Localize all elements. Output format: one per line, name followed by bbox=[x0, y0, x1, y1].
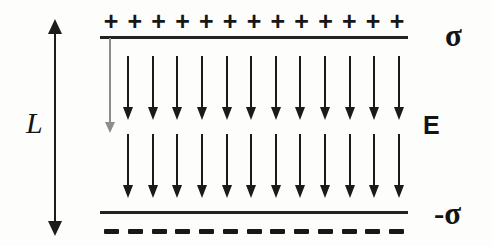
arrow-shaft bbox=[398, 56, 400, 108]
negative-charge-symbol bbox=[342, 229, 357, 234]
negative-charge-row bbox=[104, 228, 404, 234]
electric-field-label: E bbox=[423, 113, 440, 138]
arrow-shaft bbox=[152, 56, 154, 108]
electric-field-arrow bbox=[294, 56, 306, 120]
arrow-shaft bbox=[226, 134, 228, 186]
arrow-shaft bbox=[176, 56, 178, 108]
positive-charge-symbol: + bbox=[365, 9, 381, 34]
arrow-shaft bbox=[201, 134, 203, 186]
arrow-shaft bbox=[250, 56, 252, 108]
arrow-head bbox=[197, 107, 207, 120]
negative-charge-symbol bbox=[223, 229, 238, 234]
arrow-shaft bbox=[152, 134, 154, 186]
negative-charge-symbol bbox=[128, 229, 143, 234]
arrow-head bbox=[394, 107, 404, 120]
electric-field-arrow bbox=[344, 56, 356, 120]
field-arrow-row-top bbox=[122, 56, 405, 122]
arrow-shaft bbox=[349, 56, 351, 108]
arrow-head bbox=[320, 185, 330, 198]
bottom-capacitor-plate bbox=[100, 211, 408, 214]
arrow-head bbox=[369, 107, 379, 120]
positive-charge-symbol: + bbox=[198, 9, 214, 34]
arrow-head bbox=[295, 185, 305, 198]
arrow-head bbox=[320, 107, 330, 120]
arrow-head bbox=[394, 185, 404, 198]
electric-field-arrow bbox=[393, 134, 405, 198]
positive-charge-row: +++++++++++++ bbox=[103, 9, 405, 33]
arrow-head bbox=[369, 185, 379, 198]
electric-field-arrow bbox=[122, 56, 134, 120]
negative-charge-symbol bbox=[270, 229, 285, 234]
arrow-head bbox=[172, 107, 182, 120]
arrow-head bbox=[271, 185, 281, 198]
arrow-shaft bbox=[176, 134, 178, 186]
negative-charge-symbol bbox=[294, 229, 309, 234]
arrow-shaft bbox=[127, 56, 129, 108]
positive-charge-symbol: + bbox=[341, 9, 357, 34]
electric-field-arrow bbox=[147, 134, 159, 198]
field-arrow-row-bottom bbox=[122, 134, 405, 200]
electric-field-arrow bbox=[294, 134, 306, 198]
electric-field-arrow bbox=[245, 56, 257, 120]
negative-charge-symbol bbox=[175, 229, 190, 234]
arrow-shaft bbox=[299, 134, 301, 186]
positive-charge-symbol: + bbox=[270, 9, 286, 34]
electric-field-arrow bbox=[196, 56, 208, 120]
electric-field-arrow bbox=[368, 56, 380, 120]
positive-charge-symbol: + bbox=[174, 9, 190, 34]
arrow-shaft bbox=[398, 134, 400, 186]
arrow-shaft bbox=[250, 134, 252, 186]
electric-field-arrow bbox=[319, 134, 331, 198]
separation-label: L bbox=[26, 108, 43, 138]
bottom-surface-charge-label: -σ bbox=[434, 198, 461, 229]
electric-field-arrow bbox=[319, 56, 331, 120]
arrow-shaft bbox=[275, 134, 277, 186]
field-guide-arrowhead bbox=[105, 122, 115, 133]
negative-charge-symbol bbox=[152, 229, 167, 234]
positive-charge-symbol: + bbox=[127, 9, 143, 34]
arrow-shaft bbox=[127, 134, 129, 186]
arrow-head bbox=[123, 107, 133, 120]
electric-field-arrow bbox=[245, 134, 257, 198]
arrow-head bbox=[345, 185, 355, 198]
electric-field-arrow bbox=[221, 134, 233, 198]
arrow-head bbox=[271, 107, 281, 120]
arrow-shaft bbox=[349, 134, 351, 186]
arrow-shaft bbox=[324, 56, 326, 108]
positive-charge-symbol: + bbox=[151, 9, 167, 34]
positive-charge-symbol: + bbox=[222, 9, 238, 34]
arrow-head bbox=[172, 185, 182, 198]
top-surface-charge-label: σ bbox=[445, 20, 462, 51]
electric-field-arrow bbox=[122, 134, 134, 198]
electric-field-arrow bbox=[196, 134, 208, 198]
arrow-head bbox=[123, 185, 133, 198]
arrow-head bbox=[148, 107, 158, 120]
negative-charge-symbol bbox=[247, 229, 262, 234]
negative-charge-symbol bbox=[104, 229, 119, 234]
arrow-shaft bbox=[373, 134, 375, 186]
positive-charge-symbol: + bbox=[317, 9, 333, 34]
positive-charge-symbol: + bbox=[246, 9, 262, 34]
separation-arrowhead-down bbox=[48, 221, 62, 236]
electric-field-arrow bbox=[171, 134, 183, 198]
arrow-head bbox=[222, 185, 232, 198]
arrow-shaft bbox=[324, 134, 326, 186]
arrow-shaft bbox=[201, 56, 203, 108]
arrow-head bbox=[246, 185, 256, 198]
positive-charge-symbol: + bbox=[294, 9, 310, 34]
arrow-shaft bbox=[373, 56, 375, 108]
negative-charge-symbol bbox=[365, 229, 380, 234]
field-guide-line bbox=[109, 38, 111, 126]
arrow-head bbox=[295, 107, 305, 120]
arrow-head bbox=[197, 185, 207, 198]
electric-field-arrow bbox=[171, 56, 183, 120]
capacitor-field-diagram: +++++++++++++ L σ E -σ bbox=[0, 0, 492, 246]
arrow-head bbox=[246, 107, 256, 120]
electric-field-arrow bbox=[368, 134, 380, 198]
electric-field-arrow bbox=[221, 56, 233, 120]
negative-charge-symbol bbox=[318, 229, 333, 234]
arrow-shaft bbox=[299, 56, 301, 108]
electric-field-arrow bbox=[344, 134, 356, 198]
arrow-head bbox=[222, 107, 232, 120]
negative-charge-symbol bbox=[199, 229, 214, 234]
